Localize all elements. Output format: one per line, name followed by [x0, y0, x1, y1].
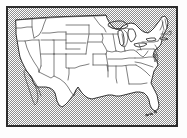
map-figure	[0, 0, 187, 138]
florida-keys-1	[154, 111, 157, 113]
us-map-graphic	[8, 8, 176, 125]
water-dither-background	[8, 8, 176, 125]
us-landmass	[16, 15, 168, 111]
florida-keys-3	[146, 114, 149, 116]
delmarva-line	[157, 54, 158, 62]
map-plate-frame	[6, 6, 178, 127]
us-outline-path	[16, 15, 168, 111]
cape-cod-line	[168, 31, 171, 35]
florida-keys-2	[150, 113, 153, 115]
long-island-shape	[160, 38, 168, 40]
